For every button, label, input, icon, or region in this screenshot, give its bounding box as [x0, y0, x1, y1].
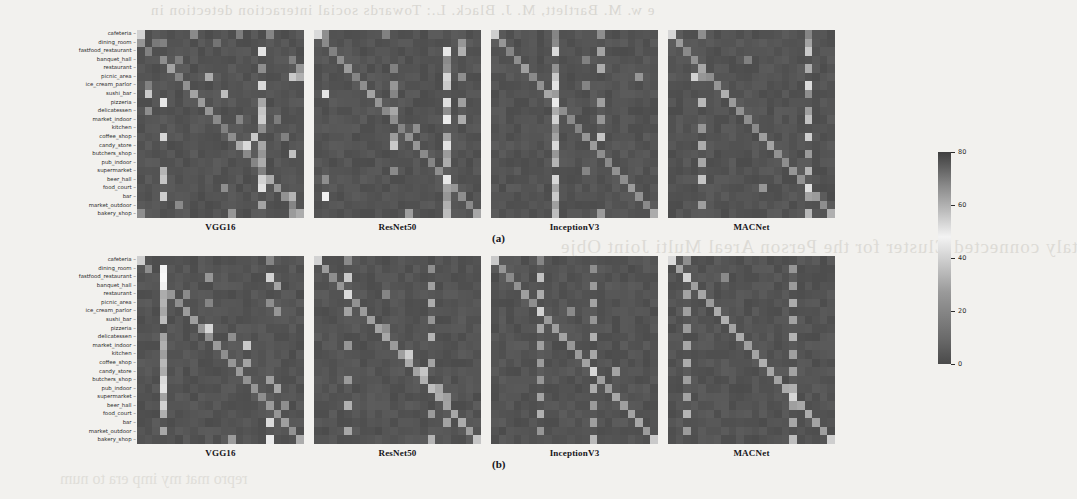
y-axis-labels-row-b: cafeteriadining_roomfastfood_restaurantb… — [38, 256, 136, 444]
y-axis-tick-label: pub_indoor — [38, 159, 136, 167]
colorbar-tick-mark — [951, 258, 955, 259]
y-axis-tick-label: beer_hall — [38, 176, 136, 184]
y-axis-tick-label: bakery_shop — [38, 210, 136, 218]
y-axis-tick-label: dining_room — [38, 265, 136, 273]
colorbar-tick-mark — [951, 364, 955, 365]
panel-title-macnet-a: MACNet — [668, 222, 835, 232]
panel-title-macnet-b: MACNet — [668, 448, 835, 458]
y-axis-tick-label: pizzeria — [38, 325, 136, 333]
y-axis-tick-label: coffee_shop — [38, 133, 136, 141]
heatmap-panel-inceptionv3-b[interactable] — [491, 256, 658, 444]
y-axis-tick-label: supermarket — [38, 167, 136, 175]
heatmap-panel-resnet50-a[interactable] — [314, 30, 481, 218]
heatmap-panel-macnet-a[interactable] — [668, 30, 835, 218]
y-axis-tick-label: food_court — [38, 410, 136, 418]
y-axis-tick-label: pub_indoor — [38, 385, 136, 393]
y-axis-tick-label: restaurant — [38, 64, 136, 72]
y-axis-tick-label: market_outdoor — [38, 428, 136, 436]
heatmap-panel-vgg16-a[interactable] — [137, 30, 304, 218]
y-axis-tick-label: food_court — [38, 184, 136, 192]
y-axis-tick-label: sushi_bar — [38, 90, 136, 98]
y-axis-tick-label: dining_room — [38, 39, 136, 47]
y-axis-tick-label: fastfood_restaurant — [38, 273, 136, 281]
y-axis-tick-label: candy_store — [38, 142, 136, 150]
y-axis-tick-label: market_indoor — [38, 116, 136, 124]
colorbar-gradient — [938, 152, 951, 364]
colorbar-tick-label: 60 — [958, 201, 966, 209]
colorbar-tick-mark — [951, 152, 955, 153]
y-axis-tick-label: candy_store — [38, 368, 136, 376]
colorbar-tick-mark — [951, 311, 955, 312]
y-axis-tick-label: banquet_hall — [38, 282, 136, 290]
panel-title-vgg16-b: VGG16 — [137, 448, 304, 458]
heatmap-panel-resnet50-b[interactable] — [314, 256, 481, 444]
y-axis-tick-label: cafeteria — [38, 256, 136, 264]
y-axis-tick-label: cafeteria — [38, 30, 136, 38]
y-axis-tick-label: supermarket — [38, 393, 136, 401]
colorbar-tick-label: 80 — [958, 148, 966, 156]
y-axis-tick-label: bar — [38, 193, 136, 201]
subfigure-label-a: (a) — [492, 232, 505, 244]
y-axis-tick-label: banquet_hall — [38, 56, 136, 64]
y-axis-tick-label: delicatessen — [38, 333, 136, 341]
y-axis-tick-label: kitchen — [38, 350, 136, 358]
y-axis-tick-label: market_outdoor — [38, 202, 136, 210]
y-axis-tick-label: ice_cream_parlor — [38, 307, 136, 315]
colorbar-tick-mark — [951, 205, 955, 206]
y-axis-labels-row-a: cafeteriadining_roomfastfood_restaurantb… — [38, 30, 136, 218]
y-axis-tick-label: bar — [38, 419, 136, 427]
heatmap-panel-inceptionv3-a[interactable] — [491, 30, 658, 218]
y-axis-tick-label: delicatessen — [38, 107, 136, 115]
y-axis-tick-label: pizzeria — [38, 99, 136, 107]
y-axis-tick-label: kitchen — [38, 124, 136, 132]
panel-title-inceptionv3-b: InceptionV3 — [491, 448, 658, 458]
y-axis-tick-label: butchers_shop — [38, 376, 136, 384]
y-axis-tick-label: butchers_shop — [38, 150, 136, 158]
subfigure-label-b: (b) — [492, 458, 505, 470]
colorbar-tick-label: 20 — [958, 307, 966, 315]
colorbar-tick-label: 0 — [958, 360, 962, 368]
y-axis-tick-label: ice_cream_parlor — [38, 81, 136, 89]
y-axis-tick-label: fastfood_restaurant — [38, 47, 136, 55]
colorbar: 806040200 — [938, 152, 1000, 364]
panel-title-resnet50-a: ResNet50 — [314, 222, 481, 232]
colorbar-tick-label: 40 — [958, 254, 966, 262]
y-axis-tick-label: picnic_area — [38, 299, 136, 307]
panel-title-resnet50-b: ResNet50 — [314, 448, 481, 458]
y-axis-tick-label: market_indoor — [38, 342, 136, 350]
y-axis-tick-label: bakery_shop — [38, 436, 136, 444]
y-axis-tick-label: sushi_bar — [38, 316, 136, 324]
heatmap-panel-macnet-b[interactable] — [668, 256, 835, 444]
y-axis-tick-label: beer_hall — [38, 402, 136, 410]
y-axis-tick-label: picnic_area — [38, 73, 136, 81]
y-axis-tick-label: restaurant — [38, 290, 136, 298]
panel-title-inceptionv3-a: InceptionV3 — [491, 222, 658, 232]
heatmap-panel-vgg16-b[interactable] — [137, 256, 304, 444]
panel-title-vgg16-a: VGG16 — [137, 222, 304, 232]
y-axis-tick-label: coffee_shop — [38, 359, 136, 367]
